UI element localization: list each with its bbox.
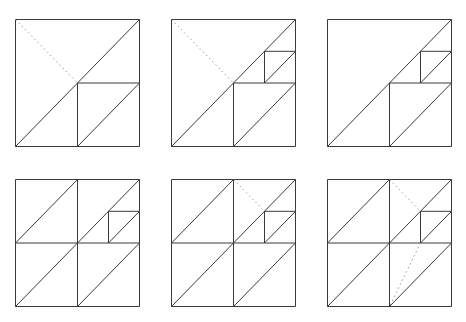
edge-line: [328, 243, 390, 307]
square-dissection-graphic: [171, 19, 296, 147]
edge-line: [109, 211, 140, 243]
edge-line: [328, 180, 390, 244]
square-dissection-graphic: [327, 19, 452, 147]
edge-line: [390, 83, 452, 147]
edge-line: [172, 243, 234, 307]
edge-line: [265, 211, 296, 243]
edge-line: [78, 83, 140, 147]
diagram-panel-6: [327, 179, 451, 306]
edge-line: [421, 51, 452, 83]
edge-line: [16, 180, 78, 244]
square-dissection-graphic: [171, 179, 296, 307]
dotted-guide-line: [390, 180, 421, 212]
edge-line: [16, 243, 78, 307]
diagram-panel-5: [171, 179, 295, 306]
dotted-guide-line: [172, 20, 234, 84]
diagram-panel-3: [327, 19, 451, 146]
diagram-panel-4: [15, 179, 139, 306]
diagram-figure: [0, 0, 466, 322]
square-dissection-graphic: [15, 179, 140, 307]
dotted-guide-line: [234, 180, 265, 212]
dotted-guide-line: [16, 20, 78, 84]
edge-line: [234, 243, 296, 307]
edge-line: [172, 180, 234, 244]
edge-line: [234, 83, 296, 147]
diagram-panel-1: [15, 19, 139, 146]
diagram-panel-2: [171, 19, 295, 146]
square-dissection-graphic: [15, 19, 140, 147]
edge-line: [265, 51, 296, 83]
edge-line: [390, 243, 452, 307]
dotted-guide-line: [390, 243, 421, 307]
edge-line: [78, 243, 140, 307]
edge-line: [421, 211, 452, 243]
square-dissection-graphic: [327, 179, 452, 307]
